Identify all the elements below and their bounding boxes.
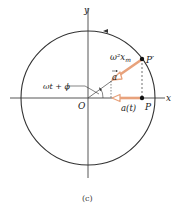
phase-label: ωt + ϕ xyxy=(43,82,71,91)
x-axis-label: x xyxy=(166,93,171,103)
point-p-prime xyxy=(140,57,144,61)
figure-caption: (c) xyxy=(82,194,93,203)
projection-acceleration-arrow xyxy=(112,95,140,102)
y-axis-label: y xyxy=(83,5,90,15)
circle-projection-diagram: y x O P′ P ω²xm a ωt + ϕ a(t) (c) xyxy=(0,0,179,208)
phase-leader-line xyxy=(67,86,99,94)
vector-a-label: a xyxy=(112,72,117,82)
p-label: P xyxy=(144,102,152,112)
origin-label: O xyxy=(78,101,86,111)
magnitude-label: ω²xm xyxy=(110,52,131,63)
point-p xyxy=(140,96,144,100)
p-prime-label: P′ xyxy=(145,55,154,65)
projection-label: a(t) xyxy=(121,103,136,113)
